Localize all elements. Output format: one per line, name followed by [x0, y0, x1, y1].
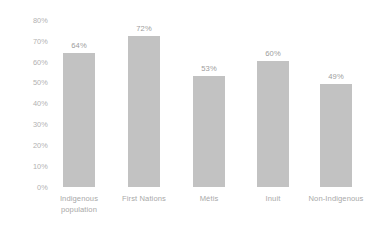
- category-label-wrap: Inuit: [242, 187, 304, 232]
- y-tick-label-10: 10%: [2, 162, 48, 171]
- category-label-line1: Indigenous: [60, 194, 98, 203]
- y-tick-label-30: 30%: [2, 120, 48, 129]
- category-label: Métis: [172, 194, 246, 205]
- category-label-wrap: First Nations: [113, 187, 175, 232]
- category-label-line1: Métis: [200, 194, 219, 203]
- bar-value-label: 60%: [242, 49, 304, 58]
- y-tick-label-60: 60%: [2, 58, 48, 67]
- bar-value-label: 49%: [305, 72, 367, 81]
- category-label: Indigenous population: [42, 194, 116, 215]
- category-label-line1: First Nations: [122, 194, 166, 203]
- bar-rect[interactable]: [320, 84, 352, 187]
- plot-area: 64% Indigenous population 72% First Nati…: [48, 0, 379, 232]
- bar-rect[interactable]: [63, 53, 95, 187]
- category-label-wrap: Non-Indigenous: [305, 187, 367, 232]
- bar-value-label: 53%: [178, 64, 240, 73]
- category-label-line1: Inuit: [266, 194, 281, 203]
- category-label-wrap: Métis: [178, 187, 240, 232]
- bar-rect[interactable]: [193, 76, 225, 187]
- bar-value-label: 72%: [113, 24, 175, 33]
- category-label: Non-Indigenous: [299, 194, 373, 205]
- bar-value-label: 64%: [48, 41, 110, 50]
- y-tick-label-70: 70%: [2, 37, 48, 46]
- y-axis: 80% 70% 60% 50% 40% 30% 20% 10% 0%: [0, 0, 48, 232]
- y-tick-label-80: 80%: [2, 16, 48, 25]
- bar-rect[interactable]: [257, 61, 289, 187]
- y-tick-label-0: 0%: [2, 183, 48, 192]
- category-label-line1: Non-Indigenous: [308, 194, 363, 203]
- category-label-wrap: Indigenous population: [48, 187, 110, 232]
- bar-rect[interactable]: [128, 36, 160, 187]
- category-label: First Nations: [107, 194, 181, 205]
- y-tick-label-40: 40%: [2, 99, 48, 108]
- y-tick-label-50: 50%: [2, 78, 48, 87]
- category-label-line2: population: [61, 205, 97, 214]
- bar-chart: 80% 70% 60% 50% 40% 30% 20% 10% 0% 64% I…: [0, 0, 379, 232]
- y-tick-label-20: 20%: [2, 141, 48, 150]
